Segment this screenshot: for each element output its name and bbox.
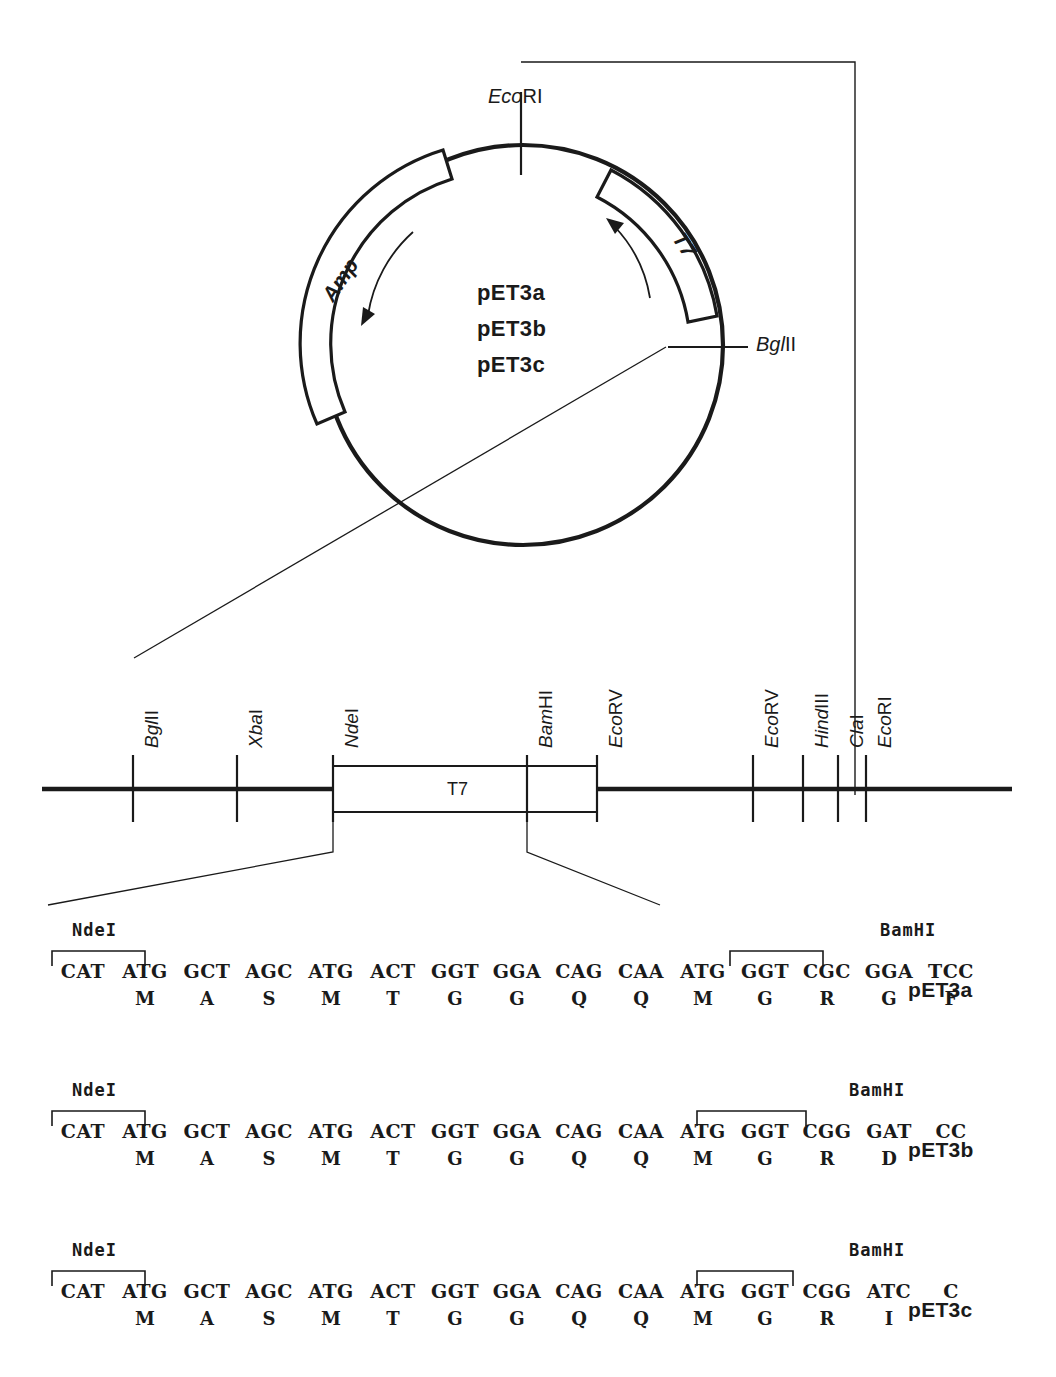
amino-acid: A [176, 1308, 238, 1329]
codon: CGC [796, 960, 858, 982]
plasmid-name-pet3b-circle: pET3b [477, 316, 546, 342]
codon: GGA [486, 960, 548, 982]
amino-acid: G [424, 1148, 486, 1169]
amino-acid: G [424, 988, 486, 1009]
seq-enzyme-label-ndei-pET3c: NdeI [72, 1240, 117, 1260]
codon: CAT [52, 1120, 114, 1142]
amino-acid: R [796, 1148, 858, 1169]
linear-site-label-xbai-1: XbaI [245, 709, 267, 748]
codon: ATG [114, 960, 176, 982]
codon: ATG [672, 1120, 734, 1142]
amino-acid: T [362, 1148, 424, 1169]
codon: CGG [796, 1280, 858, 1302]
codon: GGT [424, 960, 486, 982]
codon: AGC [238, 1280, 300, 1302]
amino-acid: G [734, 988, 796, 1009]
codon: GGA [486, 1280, 548, 1302]
circle-site-label-ecori: EcoRI [488, 85, 542, 108]
codon: CAA [610, 1120, 672, 1142]
seq-enzyme-label-bamhi-pET3c: BamHI [849, 1240, 905, 1260]
amino-acid: T [362, 988, 424, 1009]
amino-acid: G [486, 1148, 548, 1169]
amino-acid: G [734, 1308, 796, 1329]
linear-site-label-ndei-2: NdeI [341, 708, 363, 748]
plasmid-name-pet3c-row: pET3c [908, 1298, 973, 1322]
plasmid-name-pet3a-circle: pET3a [477, 280, 545, 306]
linear-site-label-hindiii-6: HindIII [811, 693, 833, 748]
linear-site-label-bamhi-3: BamHI [535, 690, 557, 748]
codon: CAA [610, 1280, 672, 1302]
codon: ATG [672, 960, 734, 982]
codon: CAT [52, 1280, 114, 1302]
circle-to-linear-leader [134, 347, 666, 658]
amino-acid: M [672, 1148, 734, 1169]
circle-site-label-bglii: BglII [756, 333, 796, 356]
linear-to-sequence-leaders [48, 822, 660, 905]
amino-acid: G [424, 1308, 486, 1329]
amino-acid: Q [548, 988, 610, 1009]
amino-acid: S [238, 1308, 300, 1329]
amino-acid: T [362, 1308, 424, 1329]
amino-acid: M [114, 1148, 176, 1169]
amp-direction-arrow [361, 232, 413, 326]
amino-acid: Q [548, 1308, 610, 1329]
amino-acid: A [176, 1148, 238, 1169]
codon: GCT [176, 960, 238, 982]
plasmid-name-pet3a-row: pET3a [908, 978, 973, 1002]
linear-site-label-ecorv-4: EcoRV [605, 689, 627, 748]
amino-acid: Q [610, 988, 672, 1009]
codon: ATG [114, 1120, 176, 1142]
codon: CAG [548, 1280, 610, 1302]
seq-enzyme-label-ndei-pET3b: NdeI [72, 1080, 117, 1100]
linear-map-t7-label: T7 [447, 779, 468, 800]
codon: AGC [238, 1120, 300, 1142]
codon: ATG [114, 1280, 176, 1302]
codon: GGT [734, 1280, 796, 1302]
codon: GGT [734, 1120, 796, 1142]
codon: ATG [672, 1280, 734, 1302]
codon: ACT [362, 960, 424, 982]
amino-acid: G [486, 1308, 548, 1329]
amino-acid: Q [548, 1148, 610, 1169]
amino-acid: Q [610, 1308, 672, 1329]
linear-site-label-ecori-8: EcoRI [874, 696, 896, 748]
linear-site-label-ecorv-5: EcoRV [761, 689, 783, 748]
codon: CGG [796, 1120, 858, 1142]
amino-acid: G [486, 988, 548, 1009]
codon: CAG [548, 1120, 610, 1142]
ecori-connector-bracket [521, 62, 855, 795]
amino-acid: R [796, 988, 858, 1009]
codon: GGT [734, 960, 796, 982]
linear-site-label-clai-7: ClaI [846, 714, 868, 748]
amino-acid: A [176, 988, 238, 1009]
figure-canvas: EcoRI BglII Amp T7 pET3a pET3b pET3c T7 … [0, 0, 1056, 1377]
codon: ATG [300, 960, 362, 982]
codon: GCT [176, 1120, 238, 1142]
codon: AGC [238, 960, 300, 982]
codon: ACT [362, 1280, 424, 1302]
amino-acid: M [114, 988, 176, 1009]
codon: GCT [176, 1280, 238, 1302]
codon: GGA [486, 1120, 548, 1142]
amino-acid: S [238, 988, 300, 1009]
amino-acid: G [734, 1148, 796, 1169]
amino-acid: M [672, 1308, 734, 1329]
amino-acid: M [300, 1148, 362, 1169]
amino-acid: Q [610, 1148, 672, 1169]
amino-acid: M [300, 988, 362, 1009]
seq-enzyme-label-bamhi-pET3a: BamHI [880, 920, 936, 940]
amino-acid: R [796, 1308, 858, 1329]
codon: GGT [424, 1120, 486, 1142]
amino-acid: M [114, 1308, 176, 1329]
amino-acid: S [238, 1148, 300, 1169]
linear-site-label-bglii-0: BglII [141, 710, 163, 748]
codon: ATG [300, 1120, 362, 1142]
codon: CAT [52, 960, 114, 982]
seq-enzyme-label-bamhi-pET3b: BamHI [849, 1080, 905, 1100]
codon: CAG [548, 960, 610, 982]
plasmid-name-pet3b-row: pET3b [908, 1138, 974, 1162]
codon: CAA [610, 960, 672, 982]
codon: GGT [424, 1280, 486, 1302]
codon: ACT [362, 1120, 424, 1142]
seq-enzyme-label-ndei-pET3a: NdeI [72, 920, 117, 940]
